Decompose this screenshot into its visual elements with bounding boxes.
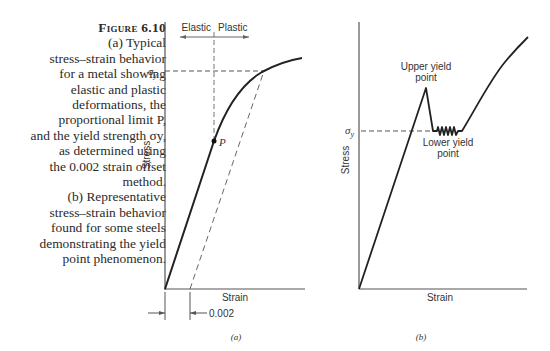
stress-strain-curve [359,37,528,289]
panel-b-label: (b) [416,332,427,342]
arrow-left-icon [190,311,196,315]
arrow-left-icon [180,35,186,39]
y-axis-label: Stress [141,141,152,169]
sigma-y-tick: σy [148,65,157,80]
p-label: P [218,136,226,148]
stress-strain-curve [165,58,302,289]
sigma-y-tick: σy [345,124,354,139]
chart-b: Stress σy Upper yieldpoint Lower yieldpo… [340,22,528,342]
x-axis-label: Strain [427,292,453,303]
arrow-right-icon [243,35,249,39]
panel-a-label: (a) [231,332,242,342]
upper-yield-label: Upper yieldpoint [401,61,452,83]
offset-label: 0.002 [209,308,234,319]
x-axis-label: Strain [222,292,248,303]
arrow-right-icon [159,311,165,315]
y-axis-label: Stress [340,146,351,174]
chart-a: Stress σy Elastic Plastic P Strain 0.002… [141,22,305,342]
proportional-limit-point [212,139,217,144]
charts: Stress σy Elastic Plastic P Strain 0.002… [0,0,550,351]
lower-yield-label: Lower yieldpoint [423,137,474,159]
plastic-label: Plastic [218,22,247,33]
elastic-label: Elastic [182,22,211,33]
